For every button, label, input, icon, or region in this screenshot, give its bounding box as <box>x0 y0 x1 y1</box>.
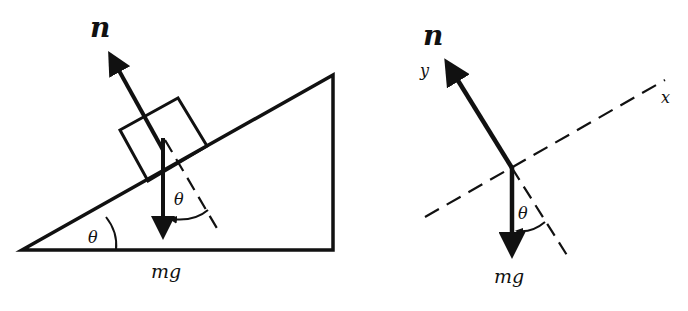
normal-force-label: n <box>90 11 110 44</box>
x-axis-dashed <box>425 80 665 217</box>
weight-angle-arc <box>517 222 545 231</box>
x-axis-label: x <box>661 88 670 107</box>
normal-force-arrow <box>449 66 512 168</box>
normal-force-arrow <box>112 58 163 150</box>
weight-label: mg <box>494 265 524 287</box>
right-panel: n y x θ mg <box>419 19 670 287</box>
diagram-canvas: n θ θ mg n y x θ mg <box>0 0 688 311</box>
incline-angle-arc <box>106 217 116 250</box>
weight-angle-label: θ <box>174 190 184 209</box>
weight-angle-label: θ <box>518 204 528 223</box>
left-panel: n θ θ mg <box>22 11 333 282</box>
weight-angle-arc <box>171 210 208 220</box>
y-axis-label: y <box>419 61 430 80</box>
weight-label: mg <box>151 260 181 282</box>
normal-force-label: n <box>423 19 443 52</box>
incline-angle-label: θ <box>88 228 98 247</box>
